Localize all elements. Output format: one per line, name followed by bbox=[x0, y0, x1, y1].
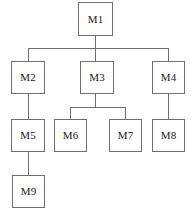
node-m7[interactable]: M7 bbox=[109, 119, 142, 152]
node-m5-label: M5 bbox=[20, 130, 36, 141]
node-m9[interactable]: M9 bbox=[12, 175, 45, 208]
node-m8-label: M8 bbox=[161, 130, 177, 141]
node-m1[interactable]: M1 bbox=[78, 2, 113, 36]
node-m6-label: M6 bbox=[63, 130, 79, 141]
node-m3[interactable]: M3 bbox=[80, 61, 114, 94]
node-m5[interactable]: M5 bbox=[11, 119, 45, 152]
node-m2-label: M2 bbox=[20, 72, 36, 83]
node-m4[interactable]: M4 bbox=[152, 61, 185, 94]
node-m7-label: M7 bbox=[118, 130, 134, 141]
node-m8[interactable]: M8 bbox=[152, 119, 185, 152]
diagram-canvas: M1 M2 M3 M4 M5 M6 M7 M8 M9 bbox=[0, 0, 191, 218]
node-m4-label: M4 bbox=[161, 72, 177, 83]
node-m3-label: M3 bbox=[89, 72, 105, 83]
node-m6[interactable]: M6 bbox=[54, 119, 87, 152]
node-m9-label: M9 bbox=[21, 186, 37, 197]
node-m2[interactable]: M2 bbox=[11, 61, 45, 94]
node-m1-label: M1 bbox=[88, 13, 104, 24]
